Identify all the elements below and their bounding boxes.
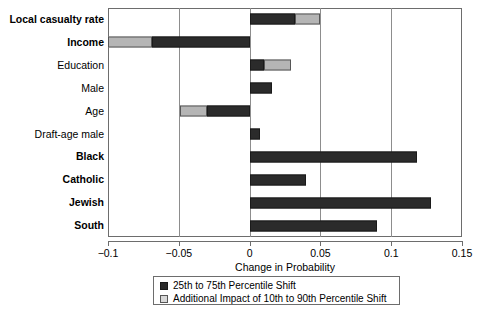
legend-label-10-90: Additional Impact of 10th to 90th Percen…	[173, 294, 386, 304]
chart-root: Local casualty rateIncomeEducationMaleAg…	[0, 0, 479, 320]
legend-item-10-90: Additional Impact of 10th to 90th Percen…	[160, 293, 399, 305]
x-tick	[391, 241, 392, 246]
bar-segment-additional-10-90	[264, 60, 291, 71]
y-axis-label: Local casualty rate	[0, 8, 104, 31]
x-tick-label: −0.1	[83, 247, 133, 259]
bar-segment-25-75	[250, 197, 431, 208]
x-tick	[108, 241, 109, 246]
y-axis-label: Draft-age male	[0, 123, 104, 146]
x-axis-line	[108, 241, 462, 242]
y-axis-label: South	[0, 214, 104, 237]
chart-legend: 25th to 75th Percentile Shift Additional…	[153, 276, 400, 305]
x-tick-label: 0.1	[366, 247, 416, 259]
bar-segment-25-75	[250, 220, 377, 231]
legend-label-25-75: 25th to 75th Percentile Shift	[173, 281, 296, 291]
bar-segment-25-75	[152, 37, 250, 48]
y-axis-label: Age	[0, 100, 104, 123]
bar-segment-25-75	[250, 128, 260, 139]
legend-item-25-75: 25th to 75th Percentile Shift	[160, 280, 399, 292]
y-axis-label: Catholic	[0, 168, 104, 191]
x-tick-label: 0.05	[295, 247, 345, 259]
bar-segment-25-75	[250, 174, 307, 185]
bar-segment-25-75	[250, 83, 273, 94]
x-tick	[320, 241, 321, 246]
y-axis-label: Jewish	[0, 191, 104, 214]
y-axis-label: Black	[0, 145, 104, 168]
bar-segment-25-75	[250, 14, 295, 25]
x-tick	[179, 241, 180, 246]
bar-segment-25-75	[250, 60, 264, 71]
bar-segment-25-75	[250, 151, 417, 162]
legend-swatch-dark-icon	[160, 282, 168, 290]
y-axis-label: Education	[0, 54, 104, 77]
x-tick-label: 0	[225, 247, 275, 259]
x-tick-label: 0.15	[437, 247, 479, 259]
y-axis-label: Income	[0, 31, 104, 54]
x-tick-label: −0.05	[154, 247, 204, 259]
x-tick	[250, 241, 251, 246]
x-axis-title: Change in Probability	[108, 261, 462, 273]
legend-swatch-light-icon	[160, 295, 168, 303]
y-axis-label: Male	[0, 77, 104, 100]
x-tick	[462, 241, 463, 246]
bar-segment-additional-10-90	[295, 14, 320, 25]
bar-segment-25-75	[207, 106, 249, 117]
bar-segment-additional-10-90	[180, 106, 207, 117]
bar-segment-additional-10-90	[108, 37, 152, 48]
